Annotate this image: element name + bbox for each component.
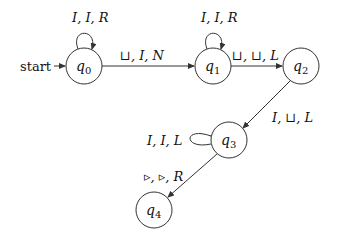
state-diagram: start I, I, R ⊔, I, N I, I, R ⊔, ⊔, L I,… <box>0 0 337 240</box>
state-q2: q2 <box>283 48 319 84</box>
edge-q1-q1 <box>206 33 222 49</box>
state-q4: q4 <box>136 192 172 228</box>
edge-label-q3-q3: I, I, L <box>146 133 182 148</box>
edge-label-q1-q2: ⊔, ⊔, L <box>232 48 279 63</box>
state-q0: q0 <box>66 48 102 84</box>
state-q1: q1 <box>195 48 231 84</box>
edge-label-q3-q4: ▹, ▹, R <box>144 169 184 184</box>
edge-label-q1-q1: I, I, R <box>200 10 238 25</box>
edge-label-q0-q1: ⊔, I, N <box>120 48 165 63</box>
edge-q0-q0 <box>77 33 93 49</box>
edge-q3-q3 <box>190 134 211 145</box>
edge-label-q2-q3: I, ⊔, L <box>271 110 313 125</box>
edge-label-q0-q0: I, I, R <box>71 10 109 25</box>
start-label: start <box>20 59 52 74</box>
state-q3: q3 <box>211 122 247 158</box>
